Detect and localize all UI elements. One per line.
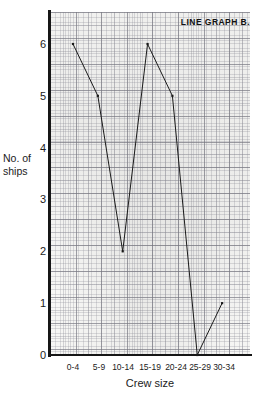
y-tick-label-3: 3	[8, 194, 46, 205]
y-tick-label-4: 4	[8, 143, 46, 154]
paper-texture	[50, 12, 250, 355]
x-axis-label: Crew size	[48, 377, 252, 389]
y-tick-label-1: 1	[8, 298, 46, 309]
y-axis-label-line-2: ships	[3, 165, 47, 178]
y-axis-line	[48, 10, 51, 357]
y-tick-label-0: 0	[8, 350, 46, 361]
y-tick-label-2: 2	[8, 246, 46, 257]
y-tick-label-6: 6	[8, 39, 46, 50]
y-tick-label-5: 5	[8, 91, 46, 102]
line-graph-figure: LINE GRAPH B. No. of ships 6 5 4 3 2 1 0…	[0, 0, 258, 399]
y-axis-label: No. of ships	[3, 152, 47, 178]
plot-area	[50, 12, 250, 355]
x-axis-line	[48, 354, 252, 356]
chart-title: LINE GRAPH B.	[181, 17, 250, 27]
x-tick-label-30-34: 30-34	[205, 362, 243, 372]
